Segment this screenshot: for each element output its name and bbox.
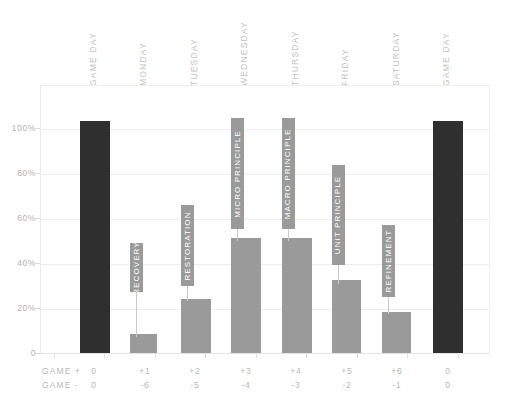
- callout-tag-unit-principle[interactable]: UNIT PRINCIPLE: [332, 165, 345, 265]
- game-plus-value: +6: [391, 366, 402, 376]
- x-tick-mark: [407, 354, 408, 358]
- game-plus-value: +1: [139, 366, 150, 376]
- x-tick-mark: [155, 354, 156, 358]
- y-tick-label: 80%: [17, 168, 36, 178]
- game-plus-value: 0: [445, 366, 451, 376]
- x-tick-mark: [458, 354, 459, 358]
- callout-stem-friday: [338, 264, 339, 284]
- day-label-friday: FRIDAY: [340, 48, 350, 86]
- game-plus-row-title: GAME +: [42, 366, 81, 376]
- y-tick-label: 60%: [17, 213, 36, 223]
- bar-wednesday[interactable]: [231, 238, 261, 353]
- day-label-game-day-post: GAME DAY: [441, 32, 451, 86]
- game-minus-value: -1: [392, 380, 401, 390]
- callout-tag-macro-principle[interactable]: MACRO PRINCIPLE: [282, 118, 295, 229]
- x-tick-mark: [205, 354, 206, 358]
- y-tick-label: 20%: [17, 303, 36, 313]
- game-minus-value: -6: [140, 380, 149, 390]
- game-minus-value: -5: [190, 380, 199, 390]
- bar-chart: 100% 80% 60% 40% 20% 0 GAME DAY MONDAY T…: [0, 0, 510, 394]
- x-tick-mark: [256, 354, 257, 358]
- callout-text-unit-principle: UNIT PRINCIPLE: [335, 176, 343, 254]
- bar-thursday[interactable]: [282, 238, 312, 353]
- day-label-monday: MONDAY: [138, 42, 148, 86]
- x-tick-mark: [306, 354, 307, 358]
- game-plus-value: 0: [91, 366, 97, 376]
- game-minus-value: -2: [342, 380, 351, 390]
- bar-friday[interactable]: [332, 280, 361, 353]
- callout-stem-tuesday: [187, 285, 188, 301]
- callout-text-recovery: RECOVERY: [133, 243, 141, 292]
- day-label-game-day-pre: GAME DAY: [88, 32, 98, 86]
- game-plus-value: +2: [189, 366, 200, 376]
- callout-stem-wednesday: [237, 228, 238, 241]
- callout-text-refinement: REFINEMENT: [385, 230, 393, 293]
- x-tick-mark: [104, 354, 105, 358]
- callout-tag-recovery[interactable]: RECOVERY: [130, 243, 143, 292]
- game-plus-value: +5: [341, 366, 352, 376]
- callout-stem-monday: [136, 291, 137, 337]
- y-tick-label: 40%: [17, 258, 36, 268]
- bar-tuesday[interactable]: [181, 299, 211, 353]
- callout-text-macro-principle: MACRO PRINCIPLE: [285, 128, 293, 219]
- game-minus-value: -4: [241, 380, 250, 390]
- plot-area: [40, 85, 490, 354]
- day-label-tuesday: TUESDAY: [189, 38, 199, 86]
- day-label-thursday: THURSDAY: [290, 30, 300, 86]
- callout-tag-refinement[interactable]: REFINEMENT: [382, 225, 395, 297]
- bar-game-day-post[interactable]: [433, 121, 463, 353]
- callout-stem-saturday: [388, 296, 389, 314]
- bar-monday[interactable]: [130, 334, 157, 353]
- day-label-saturday: SATURDAY: [391, 31, 401, 86]
- callout-text-micro-principle: MICRO PRINCIPLE: [234, 130, 242, 218]
- bar-game-day-pre[interactable]: [80, 121, 110, 353]
- callout-tag-micro-principle[interactable]: MICRO PRINCIPLE: [231, 118, 244, 229]
- bar-saturday[interactable]: [382, 312, 411, 353]
- game-minus-value: -3: [291, 380, 300, 390]
- x-tick-mark: [357, 354, 358, 358]
- callout-tag-restoration[interactable]: RESTORATION: [181, 205, 194, 286]
- y-tick-label: 100%: [12, 123, 36, 133]
- callout-stem-thursday: [288, 228, 289, 241]
- game-minus-row-title: GAME -: [42, 380, 79, 390]
- day-label-wednesday: WEDNESDAY: [239, 21, 249, 86]
- game-minus-value: 0: [445, 380, 451, 390]
- x-tick-mark: [54, 354, 55, 358]
- game-minus-value: 0: [91, 380, 97, 390]
- game-plus-value: +3: [240, 366, 251, 376]
- game-plus-value: +4: [290, 366, 301, 376]
- callout-text-restoration: RESTORATION: [184, 211, 192, 280]
